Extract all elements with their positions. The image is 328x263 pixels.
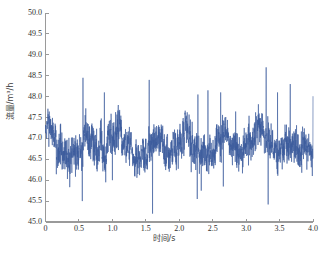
plot-area bbox=[0, 0, 328, 263]
data-series-line bbox=[46, 67, 314, 213]
chart-figure: 流量/m³/h 时间/s 45.045.546.046.547.047.548.… bbox=[0, 0, 328, 263]
data-series-group bbox=[46, 67, 314, 213]
